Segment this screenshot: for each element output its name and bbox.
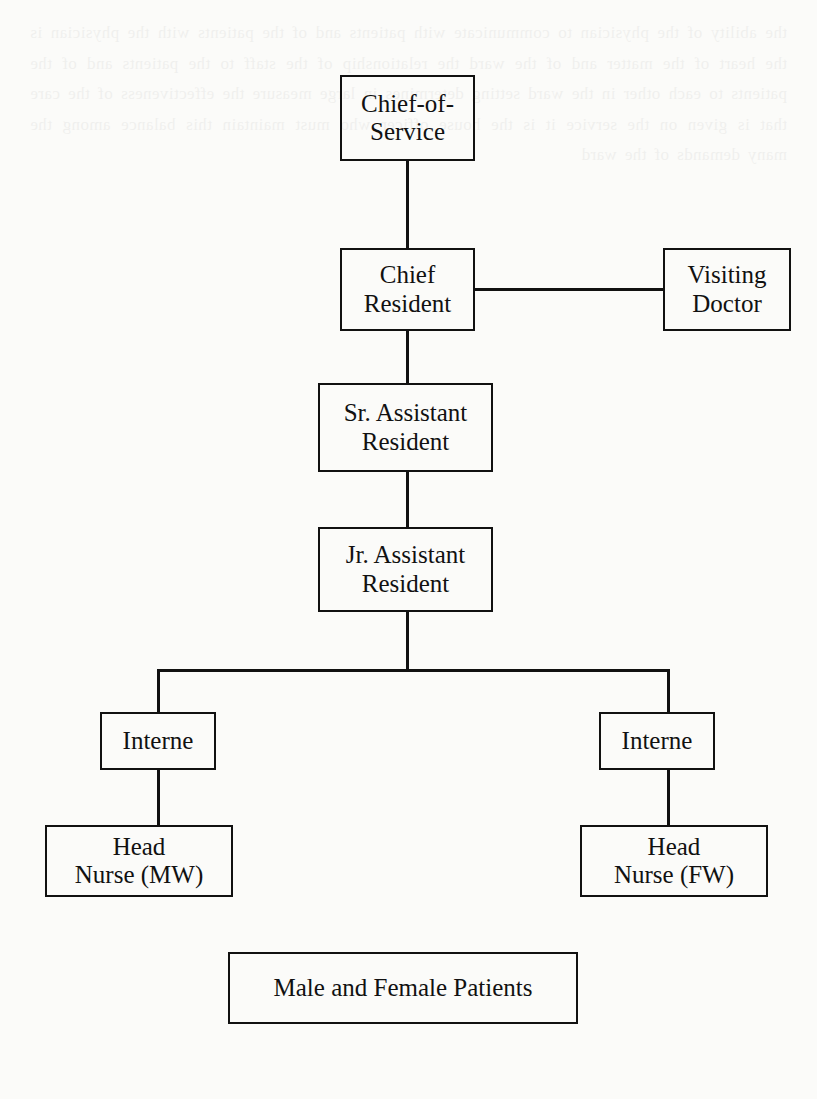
node-head-nurse-mw[interactable]: Head Nurse (MW) bbox=[45, 825, 233, 897]
connector-chief-resident-to-sr-assistant-resident bbox=[406, 329, 409, 385]
node-jr-assistant-resident[interactable]: Jr. Assistant Resident bbox=[318, 527, 493, 612]
node-chief-of-service[interactable]: Chief-of- Service bbox=[340, 75, 475, 161]
node-male-and-female-patients[interactable]: Male and Female Patients bbox=[228, 952, 578, 1024]
node-chief-resident[interactable]: Chief Resident bbox=[340, 248, 475, 331]
connector-branch-to-interne-left bbox=[157, 669, 160, 714]
connector-sr-assistant-to-jr-assistant bbox=[406, 470, 409, 529]
connector-interne-left-to-head-nurse-mw bbox=[157, 768, 160, 827]
connector-branch-to-interne-right bbox=[667, 669, 670, 714]
connector-chief-of-service-to-chief-resident bbox=[406, 159, 409, 250]
connector-interne-right-to-head-nurse-fw bbox=[667, 768, 670, 827]
branch-bar-internes bbox=[157, 669, 670, 672]
node-sr-assistant-resident[interactable]: Sr. Assistant Resident bbox=[318, 383, 493, 472]
node-head-nurse-fw[interactable]: Head Nurse (FW) bbox=[580, 825, 768, 897]
connector-jr-assistant-to-branch-bar bbox=[406, 610, 409, 672]
connector-chief-resident-to-visiting-doctor bbox=[473, 288, 665, 291]
node-visiting-doctor[interactable]: Visiting Doctor bbox=[663, 248, 791, 331]
node-interne-right[interactable]: Interne bbox=[599, 712, 715, 770]
node-interne-left[interactable]: Interne bbox=[100, 712, 216, 770]
organizational-chart-page: the ability of the physician to communic… bbox=[0, 0, 817, 1099]
